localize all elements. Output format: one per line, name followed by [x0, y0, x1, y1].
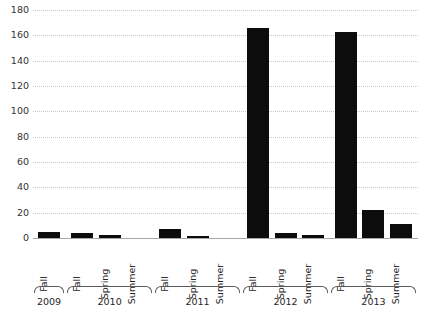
year-group: 2013 [331, 286, 416, 315]
bar[interactable] [38, 232, 60, 238]
x-tick: Summer [214, 240, 236, 284]
year-label: 2010 [67, 296, 152, 307]
x-tick: Summer [390, 240, 412, 284]
year-bracket-icon [67, 286, 152, 293]
bar[interactable] [302, 235, 324, 238]
year-label: 2013 [331, 296, 416, 307]
gridline-20 [33, 213, 418, 214]
x-tick: Spring [187, 240, 209, 284]
year-label: 2009 [34, 296, 64, 307]
x-tick: Fall [335, 240, 357, 284]
gridline-40 [33, 187, 418, 188]
year-group: 2010 [67, 286, 152, 315]
gridline-160 [33, 35, 418, 36]
x-axis-tick-labels: FallFallSpringSummerFallSpringSummerFall… [33, 240, 418, 284]
chart-title [0, 0, 424, 1]
year-group: 2012 [243, 286, 328, 315]
y-tick-label-140: 140 [1, 56, 29, 66]
bar[interactable] [362, 210, 384, 238]
y-tick-label-0: 0 [1, 233, 29, 243]
y-tick-label-180: 180 [1, 5, 29, 15]
bar[interactable] [390, 224, 412, 238]
bar[interactable] [247, 28, 269, 238]
bar[interactable] [159, 229, 181, 238]
plot-area [33, 10, 418, 238]
year-group: 2011 [155, 286, 240, 315]
bar-chart: 020406080100120140160180 FallFallSpringS… [0, 0, 424, 315]
y-tick-label-80: 80 [1, 132, 29, 142]
y-tick-label-160: 160 [1, 30, 29, 40]
bar[interactable] [275, 233, 297, 238]
y-tick-label-120: 120 [1, 81, 29, 91]
y-tick-label-100: 100 [1, 106, 29, 116]
gridline-80 [33, 137, 418, 138]
year-bracket-icon [34, 286, 64, 293]
gridline-180 [33, 10, 418, 11]
gridline-120 [33, 86, 418, 87]
gridline-0 [33, 238, 418, 239]
y-tick-label-40: 40 [1, 182, 29, 192]
x-tick: Fall [159, 240, 181, 284]
x-tick: Summer [126, 240, 148, 284]
year-bracket-icon [155, 286, 240, 293]
gridline-140 [33, 61, 418, 62]
x-tick: Spring [99, 240, 121, 284]
bar[interactable] [71, 233, 93, 238]
y-tick-label-20: 20 [1, 208, 29, 218]
year-bracket-icon [331, 286, 416, 293]
x-tick: Spring [275, 240, 297, 284]
x-tick: Fall [38, 240, 60, 284]
bar[interactable] [99, 235, 121, 238]
year-label: 2011 [155, 296, 240, 307]
gridline-60 [33, 162, 418, 163]
x-tick: Summer [302, 240, 324, 284]
year-group-brackets: 20092010201120122013 [33, 286, 418, 315]
bar[interactable] [335, 32, 357, 238]
year-group: 2009 [34, 286, 64, 315]
year-bracket-icon [243, 286, 328, 293]
gridline-100 [33, 111, 418, 112]
x-tick: Spring [362, 240, 384, 284]
x-tick: Fall [71, 240, 93, 284]
year-label: 2012 [243, 296, 328, 307]
bar[interactable] [187, 236, 209, 238]
x-tick: Fall [247, 240, 269, 284]
y-tick-label-60: 60 [1, 157, 29, 167]
